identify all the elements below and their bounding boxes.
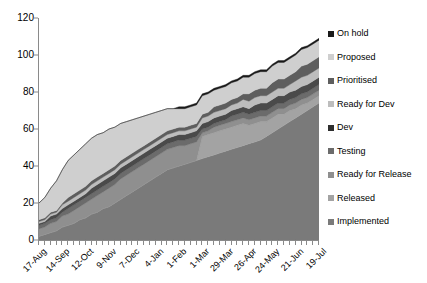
x-tick-mark — [61, 241, 62, 245]
x-tick-mark — [271, 241, 272, 245]
x-tick-mark — [277, 241, 278, 245]
x-tick-mark — [131, 241, 132, 245]
y-tick-label: 40 — [23, 161, 34, 171]
y-tick-label: 80 — [23, 87, 34, 97]
legend-item[interactable]: On hold — [328, 22, 427, 46]
x-tick-mark — [219, 241, 220, 245]
x-tick-mark — [207, 241, 208, 245]
chart-legend: On holdProposedPrioritisedReady for DevD… — [328, 22, 427, 234]
x-tick-mark — [161, 241, 162, 245]
x-tick-label: 1-Feb — [165, 247, 188, 270]
x-tick-mark — [184, 241, 185, 245]
x-axis: 17-Aug14-Sep12-Oct9-Nov7-Dec4-Jan1-Feb1-… — [38, 241, 318, 283]
x-tick-mark — [231, 241, 232, 245]
legend-item[interactable]: Proposed — [328, 46, 427, 70]
x-tick-label: 12-Oct — [70, 247, 95, 272]
x-tick-mark — [143, 241, 144, 245]
x-tick-mark — [91, 241, 92, 245]
legend-label: Dev — [337, 123, 353, 132]
legend-swatch-icon — [328, 148, 334, 154]
legend-label: Released — [337, 194, 375, 203]
x-tick-label: 9-Nov — [95, 247, 118, 270]
x-tick-label: 7-Dec — [118, 247, 141, 270]
legend-swatch-icon — [328, 125, 334, 131]
legend-label: Prioritised — [337, 76, 377, 85]
legend-item[interactable]: Testing — [328, 140, 427, 164]
x-tick-mark — [79, 241, 80, 245]
x-tick-mark — [266, 241, 267, 245]
legend-label: Ready for Dev — [337, 100, 395, 109]
x-tick-mark — [85, 241, 86, 245]
y-tick-label: 100 — [17, 50, 34, 60]
x-tick-mark — [289, 241, 290, 245]
x-tick-mark — [73, 241, 74, 245]
x-tick-mark — [225, 241, 226, 245]
x-tick-label: 17-Aug — [21, 247, 48, 274]
legend-item[interactable]: Ready for Release — [328, 163, 427, 187]
x-tick-mark — [38, 241, 39, 245]
x-tick-mark — [149, 241, 150, 245]
x-tick-mark — [306, 241, 307, 245]
x-tick-mark — [295, 241, 296, 245]
legend-swatch-icon — [328, 54, 334, 60]
legend-swatch-icon — [328, 78, 334, 84]
x-tick-mark — [248, 241, 249, 245]
x-tick-mark — [137, 241, 138, 245]
x-tick-mark — [96, 241, 97, 245]
x-tick-mark — [213, 241, 214, 245]
y-tick-label: 60 — [23, 124, 34, 134]
x-tick-label: 21-Jun — [279, 247, 305, 273]
x-tick-label: 24-May — [254, 247, 282, 275]
cumulative-flow-chart: 020406080100120 17-Aug14-Sep12-Oct9-Nov7… — [0, 0, 427, 283]
x-tick-mark — [312, 241, 313, 245]
x-tick-mark — [120, 241, 121, 245]
x-tick-mark — [242, 241, 243, 245]
legend-item[interactable]: Implemented — [328, 210, 427, 234]
x-tick-mark — [126, 241, 127, 245]
plot-area — [38, 18, 319, 241]
x-tick-mark — [102, 241, 103, 245]
x-tick-mark — [190, 241, 191, 245]
legend-label: On hold — [337, 29, 369, 38]
legend-item[interactable]: Dev — [328, 116, 427, 140]
y-tick-label: 120 — [17, 13, 34, 23]
legend-swatch-icon — [328, 172, 334, 178]
x-tick-mark — [236, 241, 237, 245]
legend-label: Testing — [337, 147, 366, 156]
legend-swatch-icon — [328, 31, 334, 37]
y-tick-label: 20 — [23, 198, 34, 208]
x-tick-mark — [196, 241, 197, 245]
x-tick-mark — [44, 241, 45, 245]
legend-label: Ready for Release — [337, 170, 412, 179]
legend-item[interactable]: Ready for Dev — [328, 93, 427, 117]
x-tick-label: 4-Jan — [143, 247, 165, 269]
x-tick-mark — [178, 241, 179, 245]
legend-label: Implemented — [337, 217, 389, 226]
x-tick-mark — [254, 241, 255, 245]
x-tick-mark — [56, 241, 57, 245]
y-axis: 020406080100120 — [0, 18, 34, 240]
x-tick-mark — [155, 241, 156, 245]
x-tick-label: 29-Mar — [208, 247, 235, 274]
x-tick-mark — [67, 241, 68, 245]
legend-item[interactable]: Prioritised — [328, 69, 427, 93]
x-tick-mark — [201, 241, 202, 245]
legend-swatch-icon — [328, 195, 334, 201]
x-tick-label: 14-Sep — [45, 247, 72, 274]
x-tick-mark — [108, 241, 109, 245]
stacked-area-svg — [39, 18, 319, 240]
legend-swatch-icon — [328, 101, 334, 107]
x-tick-mark — [260, 241, 261, 245]
x-tick-label: 19-Jul — [305, 247, 329, 271]
legend-item[interactable]: Released — [328, 187, 427, 211]
x-tick-mark — [114, 241, 115, 245]
x-tick-mark — [318, 241, 319, 245]
x-tick-mark — [301, 241, 302, 245]
x-tick-mark — [166, 241, 167, 245]
legend-swatch-icon — [328, 219, 334, 225]
legend-label: Proposed — [337, 53, 376, 62]
x-tick-mark — [172, 241, 173, 245]
x-tick-mark — [283, 241, 284, 245]
x-tick-mark — [50, 241, 51, 245]
